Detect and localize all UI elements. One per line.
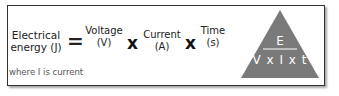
formula-triangle: E V x I x t (0, 0, 339, 96)
triangle-top-text: E (276, 34, 284, 48)
triangle-bottom-text: V x I x t (253, 53, 308, 67)
